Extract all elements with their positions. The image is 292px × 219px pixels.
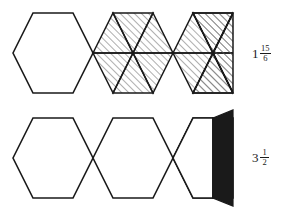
top-row-group	[13, 0, 292, 110]
top-whole-number: 1	[252, 47, 259, 60]
top-denominator: 6	[262, 54, 268, 63]
bottom-row-group	[13, 110, 292, 210]
top-plain-hexagon	[13, 13, 93, 93]
bottom-whole-number: 3	[252, 151, 259, 164]
bottom-plain-hexagon-2	[93, 118, 173, 198]
top-fraction: 15 6	[260, 44, 271, 64]
diagram-svg	[0, 0, 292, 219]
bottom-plain-hexagon-3-left	[173, 118, 213, 198]
top-fraction-label: 1 15 6	[252, 44, 271, 64]
figure-root: 1 15 6 3 1 2	[0, 0, 292, 219]
bottom-fraction: 1 2	[260, 148, 269, 168]
bottom-fraction-label: 3 1 2	[252, 148, 269, 168]
bottom-denominator: 2	[261, 158, 267, 167]
top-numerator: 15	[260, 44, 271, 53]
bottom-numerator: 1	[261, 148, 267, 157]
bottom-black-half-hexagon-flare	[213, 110, 233, 206]
bottom-plain-hexagon-1	[13, 118, 93, 198]
top-hatched-hexagon-1	[93, 13, 173, 93]
